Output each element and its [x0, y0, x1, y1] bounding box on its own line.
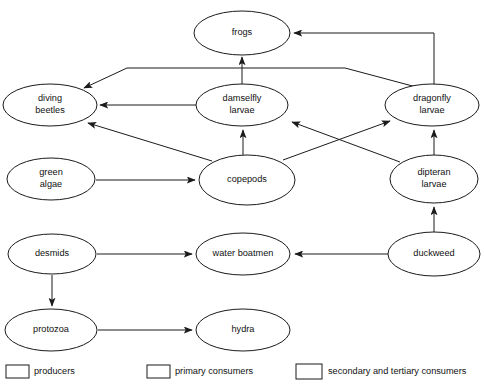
- node-label2-damselfly-larvae: larvae: [229, 105, 254, 115]
- node-copepods[interactable]: copepods: [199, 155, 295, 205]
- edge-copepods-to-divingbeetle: [88, 123, 212, 161]
- node-duckweed[interactable]: duckweed: [388, 232, 480, 276]
- node-label-damselfly-larvae: damselfly: [223, 93, 262, 103]
- node-dipteran-larvae[interactable]: dipteranlarvae: [390, 155, 478, 203]
- node-damselfly-larvae[interactable]: damselflylarvae: [196, 84, 288, 126]
- legend-item-tertiary-consumers: secondary and tertiary consumers: [296, 364, 467, 379]
- legend-label-primary-consumers: primary consumers: [175, 366, 254, 376]
- node-dragonfly-larvae[interactable]: dragonflylarvae: [385, 84, 479, 126]
- legend-label-producers: producers: [34, 366, 75, 376]
- node-label-desmids: desmids: [35, 248, 70, 258]
- node-label2-dragonfly-larvae: larvae: [419, 105, 444, 115]
- node-label-dipteran-larvae: dipteran: [417, 167, 450, 177]
- legend-item-producers: producers: [6, 365, 75, 378]
- node-label2-dipteran-larvae: larvae: [421, 179, 446, 189]
- node-label-green-algae: green: [39, 167, 63, 177]
- node-water-boatmen[interactable]: water boatmen: [196, 233, 290, 275]
- food-web-canvas: frogsdivingbeetlesdamselflylarvaedragonf…: [0, 0, 484, 384]
- node-diving-beetles[interactable]: divingbeetles: [3, 84, 97, 126]
- node-hydra[interactable]: hydra: [196, 309, 290, 351]
- node-frogs[interactable]: frogs: [194, 11, 290, 55]
- legend-label-tertiary-consumers: secondary and tertiary consumers: [328, 366, 467, 376]
- legend-swatch-primary-consumers: [147, 365, 170, 378]
- edge-dipteran-to-damselfly: [292, 122, 400, 162]
- legend-item-primary-consumers: primary consumers: [147, 365, 254, 378]
- node-label-frogs: frogs: [232, 27, 253, 37]
- legend-swatch-producers: [6, 365, 29, 378]
- node-label-protozoa: protozoa: [33, 324, 70, 334]
- node-label2-green-algae: algae: [40, 179, 62, 189]
- node-protozoa[interactable]: protozoa: [5, 309, 97, 351]
- food-web-diagram-page: frogsdivingbeetlesdamselflylarvaedragonf…: [0, 0, 484, 384]
- node-label-diving-beetles: diving: [38, 93, 62, 103]
- legend-swatch-tertiary-consumers: [296, 364, 322, 379]
- node-label-copepods: copepods: [227, 174, 267, 184]
- node-label-water-boatmen: water boatmen: [212, 248, 274, 258]
- node-label-duckweed: duckweed: [413, 248, 454, 258]
- node-label-dragonfly-larvae: dragonfly: [413, 93, 451, 103]
- node-desmids[interactable]: desmids: [8, 234, 96, 274]
- node-green-algae[interactable]: greenalgae: [7, 158, 95, 200]
- node-label-hydra: hydra: [232, 324, 256, 334]
- edge-copepods-to-dragonfly: [283, 121, 390, 160]
- edge-dragonfly-to-frogs: [294, 33, 434, 85]
- node-label2-diving-beetles: beetles: [35, 105, 65, 115]
- legend-layer: producersprimary consumerssecondary and …: [6, 364, 467, 379]
